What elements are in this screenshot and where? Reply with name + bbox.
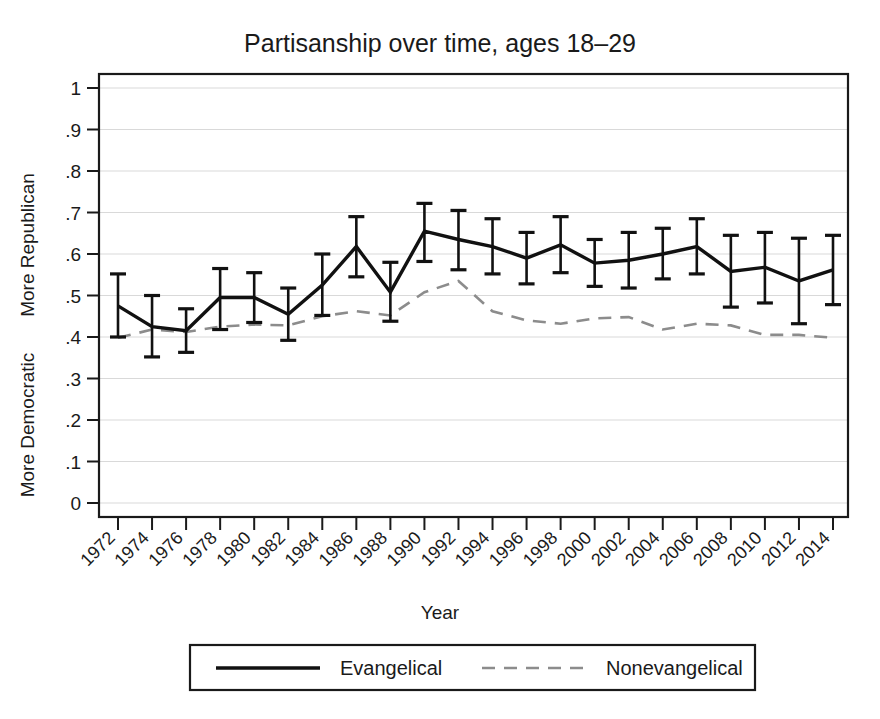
gridlines [100, 88, 847, 503]
x-tick-label: 2004 [621, 528, 663, 570]
x-axis-title-group: Year [421, 602, 460, 623]
y-axis-label-republican: More Republican [17, 173, 38, 317]
legend-label-nonevangelical: Nonevangelical [606, 657, 743, 679]
chart-title-group: Partisanship over time, ages 18–29 [244, 29, 636, 57]
x-tick-label: 2002 [587, 528, 629, 570]
x-tick-label: 1994 [451, 528, 493, 570]
y-tick-label: .2 [65, 410, 81, 431]
y-tick-label: .4 [65, 327, 81, 348]
y-tick-label: 1 [70, 78, 81, 99]
x-tick-label: 2000 [553, 528, 595, 570]
legend-label-evangelical: Evangelical [340, 657, 442, 679]
x-tick-label: 1990 [383, 528, 425, 570]
x-tick-label: 2010 [723, 528, 765, 570]
page-title: Partisanship over time, ages 18–29 [244, 29, 636, 57]
y-tick-label: .9 [65, 120, 81, 141]
x-tick-label: 1986 [315, 528, 357, 570]
x-tick-label: 1996 [485, 528, 527, 570]
y-tick-label: 0 [70, 493, 81, 514]
y-tick-label: .8 [65, 161, 81, 182]
x-tick-label: 1976 [144, 528, 186, 570]
x-axis-ticks: 1972197419761978198019821984198619881990… [76, 517, 833, 570]
y-tick-label: .7 [65, 203, 81, 224]
x-axis-label: Year [421, 602, 460, 623]
x-tick-label: 1984 [281, 528, 323, 570]
x-tick-label: 2014 [791, 528, 833, 570]
y-axis-ticks: 0.1.2.3.4.5.6.7.8.91 [65, 78, 99, 514]
y-tick-label: .1 [65, 452, 81, 473]
x-tick-label: 1972 [76, 528, 118, 570]
y-axis-title-group: More Republican More Democratic [17, 173, 38, 497]
chart-figure: Partisanship over time, ages 18–29 More … [0, 0, 880, 719]
x-tick-label: 1980 [213, 528, 255, 570]
y-tick-label: .6 [65, 244, 81, 265]
x-tick-label: 1998 [519, 528, 561, 570]
x-tick-label: 1978 [179, 528, 221, 570]
y-tick-label: .5 [65, 286, 81, 307]
chart-legend: Evangelical Nonevangelical [190, 645, 755, 690]
y-axis-label-democratic: More Democratic [17, 353, 38, 498]
x-tick-label: 1992 [417, 528, 459, 570]
x-tick-label: 2006 [655, 528, 697, 570]
x-tick-label: 1982 [247, 528, 289, 570]
error-bars-evangelical [110, 203, 841, 357]
x-tick-label: 2008 [689, 528, 731, 570]
series-evangelical [118, 231, 833, 331]
x-tick-label: 1988 [349, 528, 391, 570]
partisanship-line-chart: Partisanship over time, ages 18–29 More … [0, 0, 880, 719]
line-evangelical [118, 231, 833, 331]
x-tick-label: 2012 [757, 528, 799, 570]
y-tick-label: .3 [65, 369, 81, 390]
x-tick-label: 1974 [110, 528, 152, 570]
